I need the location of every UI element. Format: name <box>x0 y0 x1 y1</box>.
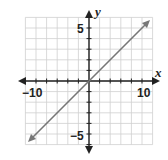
x-axis-label: x <box>154 65 162 80</box>
y-tick-label-5: 5 <box>77 22 84 36</box>
coordinate-plane: y x −10 10 5 −5 <box>0 0 168 160</box>
x-tick-label-neg10: −10 <box>22 86 43 100</box>
x-tick-label-10: 10 <box>137 86 151 100</box>
y-axis-label: y <box>93 4 101 19</box>
y-tick-label-neg5: −5 <box>70 129 84 143</box>
